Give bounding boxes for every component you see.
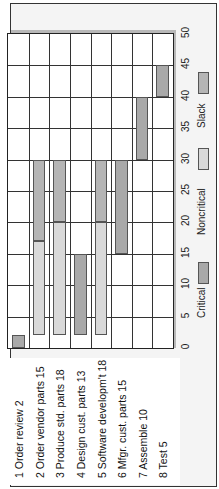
- task-label: 7 Assemble 10: [137, 409, 149, 478]
- x-tick-label: 10: [180, 275, 191, 293]
- task-label: 4 Design cust. parts 13: [75, 371, 87, 478]
- bar-noncritical: [53, 222, 66, 335]
- bar-noncritical: [33, 241, 46, 335]
- task-label: 3 Produce std. parts 18: [54, 369, 66, 478]
- x-tick-label: 25: [180, 181, 191, 199]
- legend-noncritical-swatch: [198, 148, 209, 170]
- legend-critical-label: Critical: [196, 287, 207, 318]
- task-label: 2 Order vendor parts 15: [34, 367, 46, 478]
- x-tick-label: 15: [180, 243, 191, 261]
- x-tick-label: 35: [180, 118, 191, 136]
- legend-slack-label: Slack: [196, 104, 207, 128]
- task-label: 1 Order review 2: [13, 400, 25, 478]
- x-tick-label: 40: [180, 86, 191, 104]
- bar-slack: [33, 160, 46, 242]
- task-label: 5 Software developm't 18: [96, 360, 108, 478]
- x-tick-label: 20: [180, 212, 191, 230]
- x-tick-label: 0: [180, 338, 191, 356]
- bar-critical: [156, 65, 169, 96]
- bar-critical: [12, 335, 25, 348]
- bar-critical: [74, 254, 87, 336]
- x-tick-label: 30: [180, 149, 191, 167]
- grid-line-horizontal: [8, 65, 173, 66]
- bar-noncritical: [95, 222, 108, 335]
- x-tick-label: 45: [180, 55, 191, 73]
- x-tick-label: 50: [180, 24, 191, 42]
- task-label: 8 Test 5: [157, 441, 169, 478]
- x-tick-label: 5: [180, 306, 191, 324]
- bar-critical: [136, 97, 149, 160]
- bar-slack: [53, 160, 66, 223]
- gantt-chart: 05101520253035404550 1 Order review 22 O…: [0, 0, 219, 489]
- bar-slack: [95, 160, 108, 223]
- legend-noncritical-label: Noncritical: [196, 188, 207, 235]
- legend-slack-swatch: [198, 72, 209, 94]
- plot-area: [7, 33, 174, 349]
- task-label: 6 Mfgr. cust. parts 15: [116, 380, 128, 478]
- legend-critical-swatch: [198, 262, 209, 284]
- bar-critical: [115, 160, 128, 254]
